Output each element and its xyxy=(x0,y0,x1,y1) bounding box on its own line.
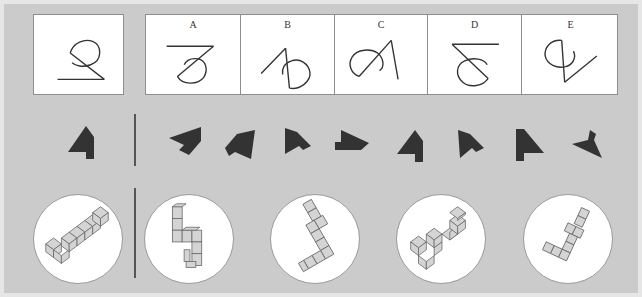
loop-line-figure-d-icon xyxy=(428,15,521,94)
arrow-polygon-option-6[interactable] xyxy=(456,128,490,162)
reference-cube-circle xyxy=(33,194,123,284)
loop-line-figure-icon xyxy=(34,15,123,94)
loop-line-figure-e-icon xyxy=(522,15,619,94)
options-strip: A B C D xyxy=(145,14,618,95)
cube-option-3[interactable] xyxy=(396,194,486,284)
option-b[interactable]: B xyxy=(240,15,334,94)
cube-option-4[interactable] xyxy=(523,194,613,284)
cube-assembly-2-icon xyxy=(271,195,359,283)
arrow-polygon-option-5[interactable] xyxy=(395,128,427,164)
arrow-polygon-option-4[interactable] xyxy=(333,128,373,156)
loop-line-figure-c-icon xyxy=(335,15,427,94)
reference-figure-box xyxy=(33,14,124,95)
arrow-polygon-icon xyxy=(64,124,98,162)
cube-assembly-3-icon xyxy=(397,195,485,283)
cube-option-1[interactable] xyxy=(144,194,234,284)
option-a[interactable]: A xyxy=(146,15,240,94)
arrow-polygon-option-3[interactable] xyxy=(281,126,315,160)
option-c[interactable]: C xyxy=(334,15,427,94)
loop-line-figure-b-icon xyxy=(241,15,334,94)
arrow-polygon-option-7[interactable] xyxy=(512,127,546,163)
cube-assembly-icon xyxy=(34,195,122,283)
option-d[interactable]: D xyxy=(427,15,521,94)
cube-assembly-4-icon xyxy=(524,195,612,283)
loop-line-figure-a-icon xyxy=(146,15,240,94)
divider xyxy=(134,114,136,166)
arrow-polygon-option-2[interactable] xyxy=(223,126,259,164)
option-e[interactable]: E xyxy=(521,15,619,94)
divider xyxy=(134,188,136,278)
arrow-polygon-option-8[interactable] xyxy=(570,128,606,164)
cube-assembly-1-icon xyxy=(145,195,233,283)
arrow-polygon-option-1[interactable] xyxy=(165,123,205,159)
cube-option-2[interactable] xyxy=(270,194,360,284)
